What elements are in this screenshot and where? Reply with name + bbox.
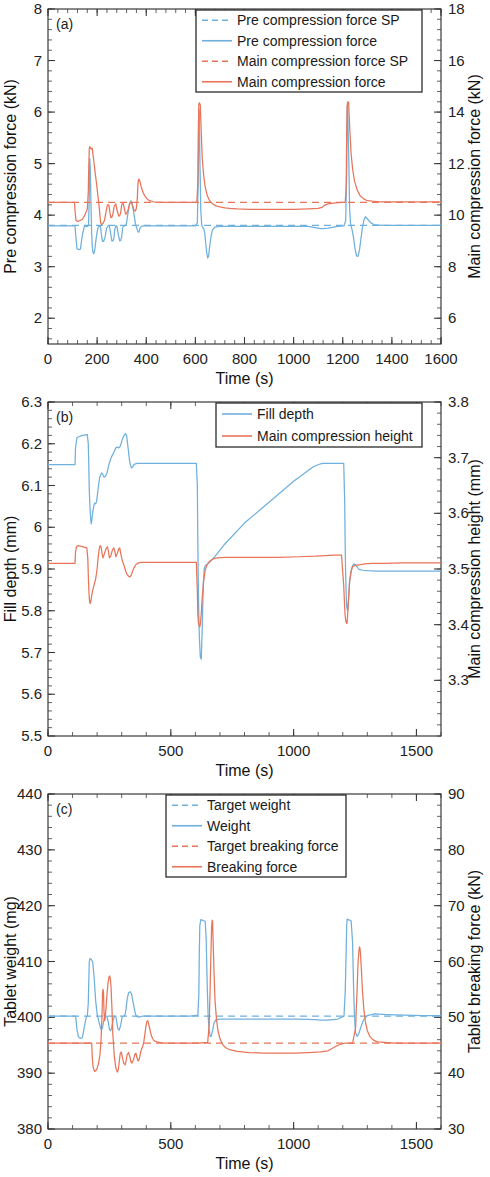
y-tick-label: 2 [34,309,42,326]
series-group [48,102,441,258]
plot-frame [48,402,441,736]
legend-label: Target breaking force [207,838,339,854]
y-tick-label: 3 [34,258,42,275]
x-tick-label: 500 [158,742,183,759]
chart-a: 0200400600800100012001400160023456786810… [0,0,490,392]
x-tick-label: 1500 [400,742,433,759]
y-tick-label: 5.7 [21,644,42,661]
y2-tick-label: 70 [448,897,465,914]
y-tick-label: 410 [17,953,42,970]
x-tick-label: 1400 [375,350,408,367]
x-tick-label: 1000 [277,1135,310,1152]
y-axis-label: Tablet weight (mg) [2,896,19,1027]
legend-label: Weight [207,818,250,834]
legend: Target weightWeightTarget breaking force… [166,795,346,877]
legend-label: Main compression height [257,428,413,444]
y2-tick-label: 12 [448,155,465,172]
y2-tick-label: 80 [448,841,465,858]
x-tick-label: 1000 [277,350,310,367]
x-axis-label: Time (s) [215,370,273,387]
x-tick-label: 1500 [400,1135,433,1152]
y-tick-label: 7 [34,52,42,69]
y-tick-label: 430 [17,841,42,858]
y2-axis-label: Tablet breaking force (kN) [466,870,483,1053]
y2-tick-label: 90 [448,785,465,802]
y2-tick-label: 8 [448,258,456,275]
y-axis-label: Fill depth (mm) [2,516,19,623]
legend-label: Main compression force [237,74,386,90]
y-tick-label: 5.9 [21,560,42,577]
y-tick-label: 6.2 [21,435,42,452]
y2-axis-label: Main compression force (kN) [466,74,483,279]
y-tick-label: 5.5 [21,727,42,744]
x-axis-label: Time (s) [215,762,273,779]
y2-tick-label: 18 [448,0,465,17]
y2-tick-label: 60 [448,953,465,970]
y-tick-label: 6.1 [21,477,42,494]
x-tick-label: 500 [158,1135,183,1152]
y-tick-label: 5 [34,155,42,172]
series-pre-compression-force [48,106,441,258]
y-tick-label: 420 [17,897,42,914]
y-tick-label: 440 [17,785,42,802]
x-tick-label: 0 [44,1135,52,1152]
legend-label: Breaking force [207,859,297,875]
x-tick-label: 600 [183,350,208,367]
y2-tick-label: 50 [448,1008,465,1025]
x-tick-label: 1600 [424,350,457,367]
x-tick-label: 1200 [326,350,359,367]
legend-label: Main compression force SP [237,53,408,69]
x-tick-label: 0 [44,742,52,759]
panel-a-compression-force: 0200400600800100012001400160023456786810… [0,0,490,392]
legend-label: Pre compression force SP [237,12,400,28]
y2-tick-label: 16 [448,52,465,69]
x-tick-label: 0 [44,350,52,367]
legend: Pre compression force SPPre compression … [196,10,422,92]
series-main-compression-force [48,102,441,225]
panel-tag: (c) [56,801,72,817]
y-tick-label: 6 [34,103,42,120]
y2-tick-label: 6 [448,309,456,326]
x-tick-label: 1000 [277,742,310,759]
y2-tick-label: 40 [448,1064,465,1081]
y-tick-label: 4 [34,206,42,223]
legend-label: Fill depth [257,406,314,422]
y-tick-label: 400 [17,1008,42,1025]
y2-tick-label: 30 [448,1120,465,1137]
series-group [48,434,441,659]
legend-label: Pre compression force [237,33,377,49]
y-tick-label: 390 [17,1064,42,1081]
chart-b: 0500100015005.55.65.75.85.966.16.26.33.3… [0,392,490,784]
y2-axis-label: Main compression height (mm) [466,459,483,679]
y-tick-label: 8 [34,0,42,17]
series-weight [48,919,441,1038]
y2-tick-label: 14 [448,103,465,120]
y2-tick-label: 3.8 [448,393,469,410]
x-tick-label: 400 [134,350,159,367]
y-axis-label: Pre compression force (kN) [2,79,19,274]
multi-panel-figure: 0200400600800100012001400160023456786810… [0,0,490,1177]
y-tick-label: 5.6 [21,685,42,702]
chart-c: 0500100015003803904004104204304403040506… [0,784,490,1177]
panel-tag: (a) [56,16,73,32]
legend-label: Target weight [207,797,290,813]
series-breaking-force [48,920,441,1072]
x-axis-label: Time (s) [215,1155,273,1172]
panel-tag: (b) [56,409,73,425]
panel-b-fill-depth: 0500100015005.55.65.75.85.966.16.26.33.3… [0,392,490,784]
series-main-compression-height [48,546,441,627]
y-tick-label: 5.8 [21,602,42,619]
panel-c-tablet-weight: 0500100015003803904004104204304403040506… [0,784,490,1177]
y2-tick-label: 10 [448,206,465,223]
x-tick-label: 200 [85,350,110,367]
y-tick-label: 6 [34,518,42,535]
y-tick-label: 6.3 [21,393,42,410]
x-tick-label: 800 [232,350,257,367]
series-group [48,919,441,1072]
y-tick-label: 380 [17,1120,42,1137]
legend: Fill depthMain compression height [216,403,422,447]
